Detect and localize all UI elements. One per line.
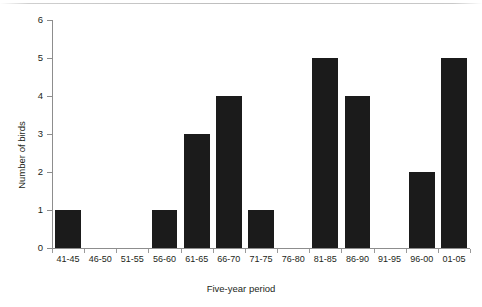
x-tick-4 — [181, 249, 182, 253]
plot-area — [52, 20, 470, 248]
x-tick-13 — [470, 249, 471, 253]
bar-66-70 — [216, 96, 242, 248]
x-axis-title: Five-year period — [0, 283, 482, 294]
x-tick-0 — [52, 249, 53, 253]
x-tick-2 — [116, 249, 117, 253]
bar-41-45 — [55, 210, 81, 248]
x-axis-spine — [52, 248, 470, 249]
x-tick-6 — [245, 249, 246, 253]
x-tick-9 — [341, 249, 342, 253]
y-tick-label-0: 0 — [0, 243, 43, 253]
y-axis-title: Number of birds — [14, 90, 28, 220]
x-tick-5 — [213, 249, 214, 253]
scan-artifact-line — [0, 3, 482, 4]
bar-81-85 — [312, 58, 338, 248]
bar-56-60 — [152, 210, 178, 248]
y-axis-title-text: Number of birds — [16, 121, 27, 189]
x-tick-7 — [277, 249, 278, 253]
x-tick-3 — [148, 249, 149, 253]
x-tick-11 — [406, 249, 407, 253]
x-tick-10 — [374, 249, 375, 253]
x-tick-12 — [438, 249, 439, 253]
y-tick-label-6: 6 — [0, 15, 43, 25]
x-tick-1 — [84, 249, 85, 253]
bar-96-00 — [409, 172, 435, 248]
y-tick-label-5: 5 — [0, 53, 43, 63]
bar-chart-figure: 0123456 41-4546-5051-5556-6061-6566-7071… — [0, 0, 482, 307]
x-tick-8 — [309, 249, 310, 253]
bar-86-90 — [345, 96, 371, 248]
bar-71-75 — [248, 210, 274, 248]
bar-61-65 — [184, 134, 210, 248]
bar-01-05 — [441, 58, 467, 248]
x-tick-label-01-05: 01-05 — [434, 255, 474, 264]
